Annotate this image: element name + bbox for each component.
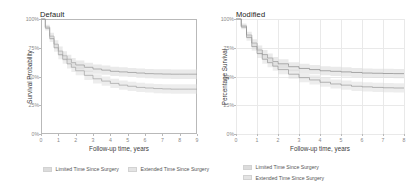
x-tick-label: 7: [161, 137, 164, 143]
x-tick-mark: [41, 134, 42, 136]
x-tick-label: 6: [144, 137, 147, 143]
x-tick-mark: [93, 134, 94, 136]
x-tick-mark: [128, 134, 129, 136]
x-tick-mark: [320, 134, 321, 136]
legend-swatch-limited-icon: [243, 165, 252, 170]
legend-item-extended[interactable]: Extended Time Since Surgery: [128, 166, 209, 172]
y-tick-mark: [39, 19, 41, 20]
y-tick-label: 100%: [24, 16, 39, 22]
x-tick-label: 5: [340, 137, 343, 143]
x-tick-mark: [76, 134, 77, 136]
y-axis-title-modified: Percentage Survival: [221, 48, 228, 104]
x-tick-label: 3: [92, 137, 95, 143]
x-tick-label: 1: [256, 137, 259, 143]
x-tick-mark: [197, 134, 198, 136]
legend-default: Limited Time Since Surgery Extended Time…: [43, 166, 209, 172]
x-tick-mark: [58, 134, 59, 136]
legend-swatch-extended-icon: [128, 167, 137, 172]
x-tick-mark: [362, 134, 363, 136]
x-tick-label: 4: [109, 137, 112, 143]
x-tick-label: 9: [196, 137, 199, 143]
legend-modified: Limited Time Since Surgery Extended Time…: [243, 164, 324, 181]
x-tick-label: 0: [40, 137, 43, 143]
y-tick-mark: [234, 19, 236, 20]
x-tick-label: 3: [298, 137, 301, 143]
x-tick-label: 1: [57, 137, 60, 143]
x-tick-label: 2: [74, 137, 77, 143]
panel-title-default: Default: [40, 10, 64, 19]
confidence-band: [41, 19, 197, 79]
legend-label-limited: Limited Time Since Surgery: [256, 164, 319, 170]
x-tick-mark: [383, 134, 384, 136]
legend-label-extended: Extended Time Since Surgery: [256, 175, 325, 181]
legend-item-limited[interactable]: Limited Time Since Surgery: [43, 166, 119, 172]
y-tick-mark: [234, 105, 236, 106]
plot-area-modified: [236, 19, 404, 134]
gridline-vertical: [404, 19, 405, 134]
survival-curve-line: [41, 19, 197, 74]
legend-item-extended[interactable]: Extended Time Since Surgery: [243, 175, 324, 181]
x-tick-mark: [110, 134, 111, 136]
x-tick-label: 4: [319, 137, 322, 143]
legend-label-limited: Limited Time Since Surgery: [56, 166, 119, 172]
y-tick-label: 0%: [219, 131, 234, 137]
legend-label-extended: Extended Time Since Surgery: [140, 166, 209, 172]
x-tick-mark: [180, 134, 181, 136]
legend-swatch-extended-icon: [243, 175, 252, 180]
survival-curves-modified: [236, 19, 404, 134]
x-tick-label: 8: [178, 137, 181, 143]
x-tick-label: 8: [403, 137, 406, 143]
x-tick-mark: [162, 134, 163, 136]
panel-modified: Modified 0%25%50%75%100% 012345678 Follo…: [208, 0, 416, 195]
panel-default: Default 0%25%50%75%100% 0123456789 Follo…: [0, 0, 208, 195]
y-tick-mark: [39, 105, 41, 106]
plot-area-default: [41, 19, 197, 134]
x-tick-mark: [278, 134, 279, 136]
x-tick-mark: [145, 134, 146, 136]
x-tick-label: 5: [126, 137, 129, 143]
x-axis-title-default: Follow-up time, years: [89, 145, 149, 152]
x-tick-mark: [257, 134, 258, 136]
x-axis-title-modified: Follow-up time, years: [290, 145, 350, 152]
y-axis-title-default: Survival Probability: [26, 50, 33, 104]
y-tick-label: 100%: [219, 16, 234, 22]
x-tick-label: 0: [235, 137, 238, 143]
x-tick-label: 7: [382, 137, 385, 143]
x-tick-mark: [236, 134, 237, 136]
y-tick-mark: [234, 77, 236, 78]
x-tick-mark: [341, 134, 342, 136]
figure-canvas: Default 0%25%50%75%100% 0123456789 Follo…: [0, 0, 416, 195]
y-tick-label: 0%: [24, 131, 39, 137]
y-tick-mark: [39, 77, 41, 78]
x-tick-label: 6: [361, 137, 364, 143]
y-tick-mark: [234, 48, 236, 49]
legend-swatch-limited-icon: [43, 167, 52, 172]
x-tick-mark: [299, 134, 300, 136]
x-tick-mark: [404, 134, 405, 136]
legend-item-limited[interactable]: Limited Time Since Surgery: [243, 164, 319, 170]
panel-title-modified: Modified: [236, 10, 265, 19]
x-tick-label: 2: [277, 137, 280, 143]
confidence-band: [41, 19, 197, 94]
y-tick-mark: [39, 48, 41, 49]
survival-curves-default: [41, 19, 197, 134]
